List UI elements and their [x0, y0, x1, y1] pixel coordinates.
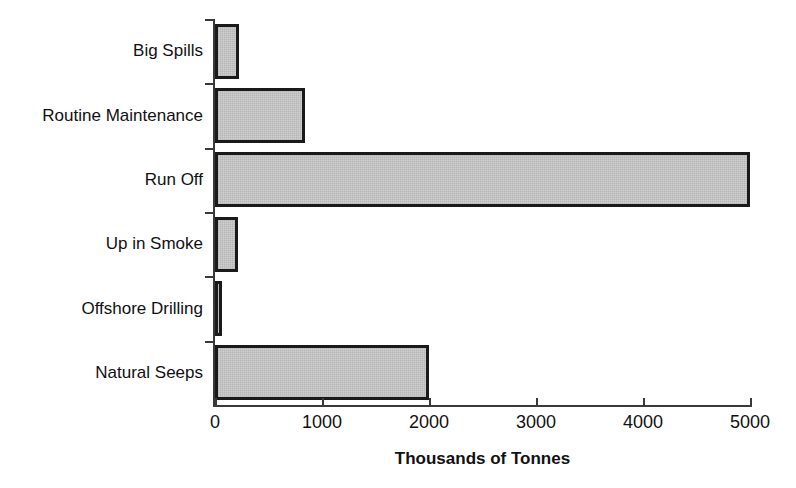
x-axis-tick — [429, 398, 431, 407]
y-axis-tick — [205, 148, 214, 150]
category-axis-labels: Big Spills Routine Maintenance Run Off U… — [0, 19, 203, 405]
x-axis-tick-label: 1000 — [302, 412, 342, 432]
bar-chart: Big Spills Routine Maintenance Run Off U… — [0, 0, 796, 488]
plot-area — [215, 19, 750, 405]
x-axis-title: Thousands of Tonnes — [215, 449, 750, 469]
category-label-natural-seeps: Natural Seeps — [0, 364, 203, 381]
bar-natural-seeps — [215, 345, 429, 400]
x-axis-tick-label: 3000 — [516, 412, 556, 432]
x-axis-tick-label: 5000 — [730, 412, 770, 432]
category-label-routine-maintenance: Routine Maintenance — [0, 107, 203, 124]
x-axis-tick — [536, 398, 538, 407]
x-axis-tick — [215, 398, 217, 407]
x-axis-tick-label: 4000 — [623, 412, 663, 432]
bar-big-spills — [215, 24, 239, 79]
x-axis-tick — [750, 398, 752, 407]
bar-up-in-smoke — [215, 217, 238, 272]
x-axis-tick — [322, 398, 324, 407]
y-axis-tick — [205, 341, 214, 343]
x-axis-tick-label: 2000 — [409, 412, 449, 432]
category-label-offshore-drilling: Offshore Drilling — [0, 300, 203, 317]
category-label-up-in-smoke: Up in Smoke — [0, 235, 203, 252]
x-axis-line — [213, 405, 752, 407]
category-label-big-spills: Big Spills — [0, 42, 203, 59]
category-label-run-off: Run Off — [0, 171, 203, 188]
bar-run-off — [215, 152, 750, 207]
y-axis-tick — [205, 83, 214, 85]
bar-offshore-drilling — [215, 281, 222, 336]
x-axis-tick-label: 0 — [210, 412, 220, 432]
y-axis-tick — [205, 276, 214, 278]
y-axis-tick — [205, 212, 214, 214]
x-axis-tick — [643, 398, 645, 407]
bar-routine-maintenance — [215, 88, 305, 143]
y-axis-tick — [205, 19, 214, 21]
